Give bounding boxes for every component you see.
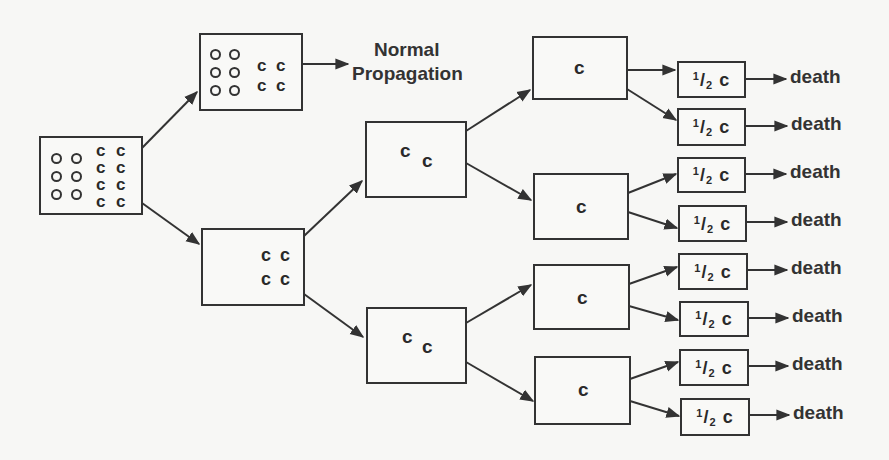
half-c-box: 1/2 c	[678, 205, 747, 242]
single-c-box: c	[532, 36, 628, 100]
single-c-box: c	[534, 356, 631, 425]
normal-cell-icon	[51, 153, 62, 164]
single-c-box: c	[533, 173, 629, 240]
half-c-box: 1/2 c	[680, 398, 750, 436]
half-c-box: 1/2 c	[677, 61, 746, 98]
c-cell: c	[96, 159, 105, 176]
normal-cell-icon	[229, 67, 240, 78]
death-label: death	[790, 66, 841, 88]
death-label: death	[791, 209, 842, 231]
normal-propagation-line2: Propagation	[352, 62, 463, 86]
normal-cell-icon	[71, 171, 82, 182]
normal-cell-icon	[51, 171, 62, 182]
c-cell: c	[96, 142, 105, 159]
death-label: death	[791, 257, 842, 279]
c-cell: c	[577, 288, 588, 307]
normal-cell-icon	[229, 49, 240, 60]
c-cell: c	[576, 197, 587, 216]
root-cell-box: c c c c c c c c	[39, 136, 143, 215]
upper-branch-box: c c c c	[199, 33, 303, 111]
c-cell: c	[276, 77, 285, 94]
c-cell: c	[116, 176, 125, 193]
half-c-box: 1/2 c	[679, 349, 749, 386]
c-cell: c	[402, 327, 413, 346]
normal-propagation-line1: Normal	[352, 38, 463, 62]
death-label: death	[790, 161, 841, 183]
c-cell: c	[257, 77, 266, 94]
c-cell: c	[261, 270, 271, 288]
normal-cell-icon	[51, 189, 62, 200]
c-cell: c	[280, 270, 290, 288]
normal-cell-icon	[210, 67, 221, 78]
c-cell: c	[257, 57, 266, 74]
c-cell: c	[422, 337, 433, 356]
death-label: death	[793, 402, 844, 424]
c-cell: c	[578, 380, 589, 399]
half-c-box: 1/2 c	[677, 157, 746, 193]
c-cell: c	[400, 141, 411, 160]
death-label: death	[792, 305, 843, 327]
c-cell: c	[116, 193, 125, 210]
c-cell: c	[276, 57, 285, 74]
normal-cell-icon	[210, 49, 221, 60]
half-c-box: 1/2 c	[679, 301, 749, 337]
c-cell: c	[280, 246, 290, 264]
normal-cell-icon	[71, 153, 82, 164]
death-label: death	[791, 113, 842, 135]
split-box-upper: c c	[365, 121, 467, 198]
c-cell: c	[261, 246, 271, 264]
normal-cell-icon	[71, 189, 82, 200]
c-cell: c	[574, 58, 585, 77]
normal-cell-icon	[229, 85, 240, 96]
c-cell: c	[116, 142, 125, 159]
normal-cell-icon	[210, 85, 221, 96]
c-cell: c	[96, 176, 105, 193]
c-cell: c	[96, 193, 105, 210]
death-label: death	[792, 353, 843, 375]
half-c-box: 1/2 c	[677, 108, 746, 146]
split-box-lower: c c	[366, 307, 467, 384]
half-c-box: 1/2 c	[678, 253, 748, 290]
normal-propagation-label: Normal Propagation	[352, 38, 463, 86]
c-cell: c	[116, 159, 125, 176]
c-cell: c	[422, 151, 433, 170]
single-c-box: c	[533, 264, 630, 330]
lower-branch-box: c c c c	[201, 228, 305, 306]
